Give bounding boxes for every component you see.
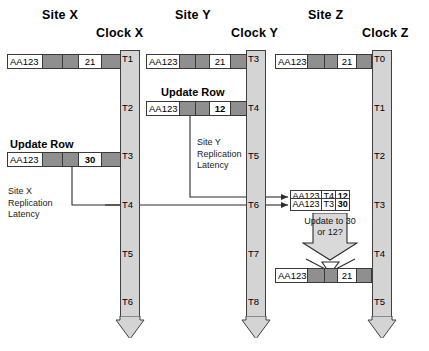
clock-y-title: Clock Y [231,26,278,40]
clock-z-shaft [372,50,392,318]
row-filler-cell [63,55,79,68]
clock-z-arrowhead [366,316,398,338]
clock-y-tick-1: T4 [248,103,259,113]
row-filler-cell [102,55,120,68]
clock-z-title: Clock Z [362,26,409,40]
clock-x-tick-1: T2 [122,103,133,113]
clock-y-tick-5: T8 [248,297,259,307]
clock-y-tick-2: T5 [248,151,259,161]
clock-y-shaft [246,50,266,318]
site-x-updated-row: AA123 30 [7,152,121,167]
row-filler-cell [43,55,63,68]
row-key-cell: AA123 [8,153,43,166]
clock-x-tick-2: T3 [122,151,133,161]
row-value-cell: 21 [79,55,103,68]
clock-y-tick-3: T6 [248,200,259,210]
site-x-title: Site X [42,8,78,22]
clock-y-tick-0: T3 [248,54,259,64]
row-filler-cell [43,153,63,166]
row-filler-cell [308,269,325,282]
site-z-queue-row-2: AA123 T3 30 [290,198,350,211]
clock-z-tick-0: T0 [374,54,385,64]
clock-y-arrowhead [240,316,272,338]
row-value-cell: 21 [338,55,358,68]
row-key-cell: AA123 [8,55,43,68]
row-filler-cell [102,153,120,166]
row-filler-cell [231,55,246,68]
row-filler-cell [357,55,371,68]
row-filler-cell [325,269,338,282]
clock-x-title: Clock X [96,26,143,40]
site-z-initial-row: AA123 21 [275,54,372,69]
site-z-title: Site Z [308,8,343,22]
connector-lines [0,0,429,351]
clock-x-tick-3: T4 [122,200,133,210]
clock-x-tick-4: T5 [122,249,133,259]
clock-z-tick-4: T4 [374,249,385,259]
clock-x-tick-5: T6 [122,297,133,307]
clock-z-tick-2: T2 [374,151,385,161]
row-key-cell: AA123 [291,199,322,210]
site-y-latency-note: Site Y Replication Latency [197,137,242,172]
update-decision-text: Update to 30 or 12? [302,216,358,237]
update-decision-arrow: Update to 30 or 12? [302,213,358,259]
row-filler-cell [180,55,196,68]
row-filler-cell [196,102,210,115]
clock-z-tick-1: T1 [374,103,385,113]
site-y-initial-row: AA123 21 [146,54,247,69]
site-z-final-row: AA123 21 [275,268,372,283]
row-key-cell: AA123 [147,102,180,115]
replication-timing-diagram: Site X Clock X Site Y Clock Y Site Z Clo… [0,0,429,351]
site-y-title: Site Y [175,8,211,22]
clock-x-shaft [120,50,140,318]
site-x-latency-note: Site X Replication Latency [8,186,53,221]
clock-z-tick-3: T3 [374,200,385,210]
row-filler-cell [196,55,210,68]
clock-z-tick-5: T5 [374,297,385,307]
row-value-cell: 30 [79,153,103,166]
row-filler-cell [63,153,79,166]
row-filler-cell [180,102,196,115]
row-timestamp-cell: T3 [322,199,337,210]
clock-x-arrowhead [114,316,146,338]
row-value-cell: 21 [338,269,358,282]
clock-y-tick-4: T7 [248,249,259,259]
row-filler-cell [357,269,371,282]
clock-x-tick-0: T1 [122,54,133,64]
site-y-update-caption: Update Row [161,86,225,98]
row-key-cell: AA123 [147,55,180,68]
row-key-cell: AA123 [276,269,308,282]
row-value-cell: 30 [336,199,349,210]
site-x-update-caption: Update Row [10,138,74,150]
row-key-cell: AA123 [276,55,308,68]
row-filler-cell [325,55,338,68]
row-value-cell: 12 [210,102,232,115]
row-filler-cell [308,55,325,68]
row-filler-cell [231,102,246,115]
site-x-initial-row: AA123 21 [7,54,121,69]
row-value-cell: 21 [210,55,232,68]
site-y-updated-row: AA123 12 [146,101,247,116]
